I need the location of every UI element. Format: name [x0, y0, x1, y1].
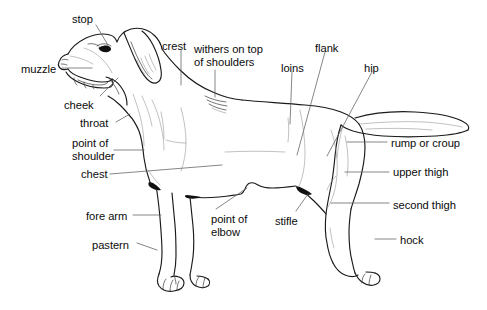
- hind-paw-far: [355, 273, 380, 285]
- label-pastern: pastern: [92, 239, 129, 252]
- ear-fold-1: [137, 60, 145, 75]
- label-muzzle: muzzle: [21, 63, 56, 76]
- neck-crease-1: [133, 94, 144, 146]
- label-upper-thigh: upper thigh: [393, 166, 448, 179]
- shoulder-blade-contour: [181, 108, 186, 171]
- tail-detail-1: [360, 122, 462, 127]
- label-chest: chest: [81, 168, 108, 181]
- shoulder-contour-1: [152, 100, 164, 150]
- nose-crease: [61, 64, 67, 65]
- front-paw-far-toe-1: [163, 279, 166, 289]
- tail-detail-2: [366, 128, 432, 130]
- stifle-shadow: [296, 186, 312, 195]
- nose: [59, 54, 69, 70]
- front-leg-far-front: [156, 186, 162, 274]
- front-paw-near: [190, 275, 210, 288]
- front-leg-near-rear: [190, 197, 194, 275]
- front-paw-near-toe-1: [196, 277, 199, 286]
- label-flank: flank: [315, 42, 338, 55]
- withers-tuft-4: [212, 108, 226, 113]
- point-of-elbow-leader: [216, 188, 247, 209]
- hind-paw-far-front: [366, 272, 375, 273]
- label-stop: stop: [72, 13, 93, 26]
- stifle-leader: [296, 194, 308, 211]
- belly-line: [190, 183, 296, 198]
- withers-tuft-2: [207, 100, 227, 106]
- throat-leader: [116, 114, 130, 122]
- withers-tuft-3: [209, 104, 226, 110]
- rump-rear-line: [351, 124, 365, 209]
- front-paw-far-toe-2: [170, 280, 173, 291]
- muzzle-contour: [70, 56, 93, 64]
- label-hip: hip: [364, 62, 379, 75]
- label-rump-or-croup: rump or croup: [391, 137, 460, 150]
- chest-leader: [110, 165, 222, 174]
- withers-tuft-1: [205, 96, 226, 102]
- hock-crease: [330, 228, 334, 248]
- label-withers: withers on top of shoulders: [194, 43, 263, 70]
- label-second-thigh: second thigh: [393, 199, 456, 212]
- loin-crease: [288, 118, 289, 142]
- label-point-of-shoulder: point of shoulder: [72, 137, 115, 164]
- label-loins: loins: [281, 62, 304, 75]
- loins-leader: [290, 72, 292, 124]
- hind-leg-far-rear: [349, 209, 355, 273]
- label-fore-arm: fore arm: [86, 210, 127, 223]
- jowl-line: [112, 79, 127, 105]
- front-leg-far-rear: [172, 193, 176, 275]
- nostril-line: [62, 59, 68, 60]
- tail-top-line: [355, 112, 469, 130]
- label-crest: crest: [162, 40, 186, 53]
- head-top-outline: [68, 28, 162, 54]
- label-point-of-elbow: point of elbow: [211, 213, 247, 240]
- dog-anatomy-diagram: stop muzzle cheek throat point of should…: [0, 0, 487, 310]
- label-hock: hock: [400, 234, 423, 247]
- flank-contour: [299, 110, 305, 186]
- shoulder-shadow: [148, 182, 161, 190]
- label-stifle: stifle: [275, 215, 298, 228]
- body-sheen-line: [225, 151, 285, 152]
- front-paw-far-toe-3: [177, 281, 179, 290]
- croup-crease: [337, 126, 343, 158]
- front-paw-near-toe-2: [203, 278, 205, 288]
- front-paw-far: [158, 274, 185, 291]
- eye: [99, 46, 111, 53]
- chest-muscle-line: [166, 140, 186, 143]
- hind-paw-far-toe-2: [369, 275, 371, 285]
- stop-leader: [96, 25, 108, 45]
- ear-outline: [124, 31, 161, 83]
- label-cheek: cheek: [64, 99, 94, 112]
- pastern-leader: [137, 243, 157, 250]
- neck-crease-2: [142, 96, 152, 126]
- label-throat: throat: [80, 117, 108, 130]
